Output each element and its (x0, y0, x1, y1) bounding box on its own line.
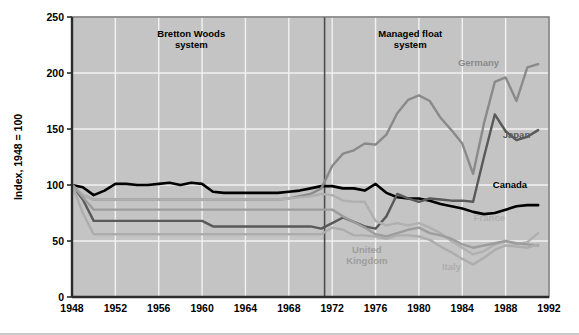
y-tick-label: 100 (46, 179, 64, 191)
series-label-germany: Germany (458, 57, 500, 68)
annotation-line-2: system (394, 39, 427, 50)
annotation-line-2: system (175, 39, 208, 50)
y-axis-title: Index, 1948 = 100 (12, 114, 24, 200)
y-tick-label: 200 (46, 67, 64, 79)
annotation-line-1: Managed float (378, 28, 443, 39)
x-tick-label: 1992 (537, 302, 561, 314)
series-label-text: Italy (442, 261, 462, 272)
x-tick-label: 1948 (60, 302, 84, 314)
y-tick-label: 50 (52, 235, 64, 247)
chart-figure: 0501001502002501948195219561960196419681… (0, 0, 579, 335)
chart-canvas: 0501001502002501948195219561960196419681… (0, 0, 579, 335)
series-label-italy: Italy (442, 261, 462, 272)
x-tick-label: 1988 (494, 302, 518, 314)
y-tick-label: 0 (58, 291, 64, 303)
x-tick-label: 1984 (451, 302, 475, 314)
annotation-line-1: Bretton Woods (157, 28, 225, 39)
x-tick-label: 1972 (321, 302, 345, 314)
y-tick-label: 250 (46, 11, 64, 23)
x-tick-label: 1980 (407, 302, 431, 314)
series-label-text: Canada (493, 179, 528, 190)
x-tick-label: 1952 (104, 302, 128, 314)
x-tick-label: 1976 (364, 302, 388, 314)
series-label-text: Kingdom (346, 255, 387, 266)
x-tick-label: 1956 (147, 302, 171, 314)
series-label-canada: Canada (493, 179, 528, 190)
series-label-japan: Japan (503, 129, 531, 140)
series-label-text: Japan (503, 129, 531, 140)
series-label-text: Germany (458, 57, 500, 68)
series-label-text: United (352, 244, 382, 255)
series-label-united-kingdom: UnitedKingdom (346, 244, 387, 266)
x-tick-label: 1960 (190, 302, 214, 314)
x-tick-label: 1968 (277, 302, 301, 314)
series-label-text: France (474, 212, 505, 223)
x-tick-label: 1964 (234, 302, 258, 314)
y-tick-label: 150 (46, 123, 64, 135)
series-label-france: France (474, 212, 505, 223)
